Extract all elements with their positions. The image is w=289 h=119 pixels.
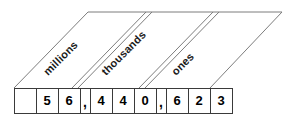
guide-line-right-edge bbox=[210, 12, 282, 88]
digit-value: 4 bbox=[97, 93, 105, 108]
place-value-diagram: millions thousands ones 5 6 , 4 4 0 , 6 bbox=[0, 0, 289, 119]
digit-value: 5 bbox=[43, 93, 50, 108]
guide-line-millions-divider-a bbox=[72, 12, 146, 88]
digit-value: 3 bbox=[217, 93, 224, 108]
guide-line-left-edge bbox=[14, 12, 88, 88]
digit-cell bbox=[14, 88, 36, 113]
place-value-chart-figure: millions thousands ones 5 6 , 4 4 0 , 6 bbox=[0, 0, 289, 119]
period-label-ones: ones bbox=[169, 50, 196, 77]
comma-value: , bbox=[83, 94, 87, 110]
period-label-millions: millions bbox=[41, 38, 80, 77]
comma-value: , bbox=[159, 94, 163, 110]
digit-value: 6 bbox=[65, 93, 72, 108]
digit-value: 6 bbox=[173, 93, 180, 108]
digit-value: 4 bbox=[119, 93, 127, 108]
digit-cell-row: 5 6 , 4 4 0 , 6 2 3 bbox=[14, 88, 232, 113]
digit-value: 0 bbox=[141, 93, 148, 108]
guide-line-thousands-divider-b bbox=[145, 12, 219, 88]
guide-line-millions-divider-b bbox=[78, 12, 152, 88]
digit-value: 2 bbox=[195, 93, 202, 108]
perspective-guide-lines bbox=[14, 12, 282, 88]
